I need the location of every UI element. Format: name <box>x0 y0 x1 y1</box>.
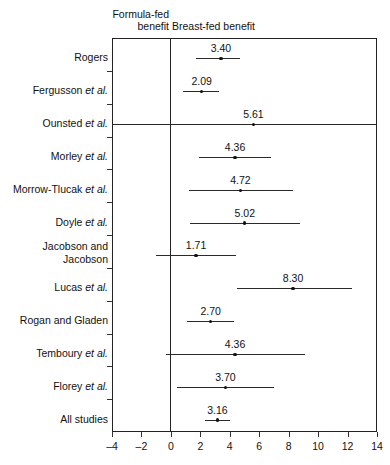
forest-plot: Formula-fed benefit Breast-fed benefit –… <box>0 0 390 465</box>
x-tick-label: –2 <box>128 440 154 452</box>
y-tick <box>107 334 112 335</box>
effect-value-label: 5.02 <box>225 207 265 219</box>
x-tick <box>230 432 231 437</box>
effect-value-label: 8.30 <box>273 272 313 284</box>
effect-value-label: 4.72 <box>220 174 260 186</box>
effect-value-label: 4.36 <box>215 338 255 350</box>
x-tick <box>141 432 142 437</box>
study-label: All studies <box>0 413 108 426</box>
x-tick-label: 0 <box>158 440 184 452</box>
x-tick <box>259 432 260 437</box>
effect-value-label: 3.70 <box>205 371 245 383</box>
x-tick-label: 8 <box>276 440 302 452</box>
formula-fed-benefit-label: Formula-fed benefit <box>112 8 169 32</box>
x-tick <box>289 432 290 437</box>
effect-value-label: 3.40 <box>201 42 241 54</box>
study-label: Florey et al. <box>0 380 108 393</box>
y-tick <box>107 137 112 138</box>
point-estimate <box>233 353 236 356</box>
study-label: Temboury et al. <box>0 347 108 360</box>
x-tick-label: 12 <box>335 440 361 452</box>
effect-value-label: 2.09 <box>182 75 222 87</box>
x-tick <box>200 432 201 437</box>
point-estimate <box>233 156 236 159</box>
y-tick <box>107 169 112 170</box>
study-label: Rogers <box>0 51 108 64</box>
x-tick-label: 6 <box>246 440 272 452</box>
study-label: Morrow-Tlucak et al. <box>0 183 108 196</box>
y-tick <box>107 202 112 203</box>
x-tick <box>318 432 319 437</box>
x-tick <box>171 432 172 437</box>
effect-value-label: 4.36 <box>215 141 255 153</box>
study-label: Rogan and Gladen <box>0 314 108 327</box>
study-label: Morley et al. <box>0 150 108 163</box>
x-tick-label: 14 <box>364 440 390 452</box>
x-tick-label: 2 <box>187 440 213 452</box>
confidence-interval <box>196 58 240 59</box>
study-label: Ounsted et al. <box>0 117 108 130</box>
y-tick <box>107 399 112 400</box>
x-tick <box>348 432 349 437</box>
breast-fed-benefit-label: Breast-fed benefit <box>172 20 312 32</box>
point-estimate <box>216 418 219 421</box>
effect-value-label: 2.70 <box>191 305 231 317</box>
y-tick <box>107 104 112 105</box>
point-estimate <box>291 287 294 290</box>
x-tick <box>377 432 378 437</box>
null-effect-line <box>170 38 171 432</box>
point-estimate <box>239 189 242 192</box>
study-label: Doyle et al. <box>0 216 108 229</box>
y-tick <box>107 301 112 302</box>
confidence-interval <box>112 124 377 125</box>
y-tick <box>107 268 112 269</box>
study-label: Fergusson et al. <box>0 84 108 97</box>
effect-value-label: 3.16 <box>197 404 237 416</box>
study-label: Jacobson andJacobson <box>0 240 108 265</box>
y-tick <box>107 235 112 236</box>
x-tick-label: 4 <box>217 440 243 452</box>
y-tick <box>107 71 112 72</box>
point-estimate <box>224 386 227 389</box>
y-tick <box>107 366 112 367</box>
x-tick-label: 10 <box>305 440 331 452</box>
study-label: Lucas et al. <box>0 281 108 294</box>
effect-value-label: 1.71 <box>176 239 216 251</box>
x-tick-label: –4 <box>99 440 125 452</box>
effect-value-label: 5.61 <box>233 108 273 120</box>
x-tick <box>112 432 113 437</box>
